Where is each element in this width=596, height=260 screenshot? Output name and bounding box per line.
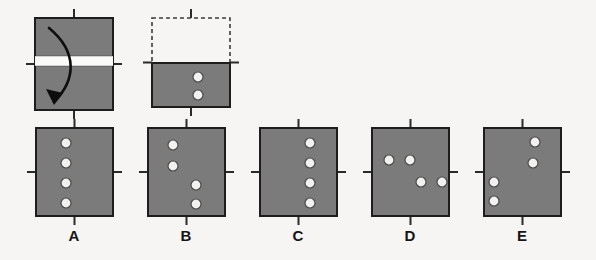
option-b-hole-1 — [168, 140, 178, 150]
paper-folding-figure: ABCDE — [0, 0, 596, 260]
option-b-hole-2 — [168, 161, 178, 171]
option-a-label: A — [69, 227, 80, 244]
option-d-hole-4 — [437, 177, 447, 187]
option-d-hole-1 — [384, 155, 394, 165]
figure-canvas: ABCDE — [0, 0, 596, 260]
option-c-sheet[interactable] — [260, 128, 337, 216]
option-e-label: E — [517, 227, 527, 244]
option-b-sheet[interactable] — [148, 128, 225, 216]
option-a-hole-1 — [61, 138, 71, 148]
punch-step-hole-1 — [193, 72, 203, 82]
option-d-label: D — [405, 227, 416, 244]
punch-step-folded-sheet — [152, 63, 230, 107]
punch-step-hole-2 — [193, 90, 203, 100]
option-b-hole-4 — [191, 199, 201, 209]
option-b-label: B — [181, 227, 192, 244]
option-c-hole-2 — [305, 158, 315, 168]
option-c-hole-3 — [305, 178, 315, 188]
option-d-sheet[interactable] — [372, 128, 449, 216]
option-e-hole-3 — [489, 177, 499, 187]
option-b-hole-3 — [191, 180, 201, 190]
option-a-sheet[interactable] — [36, 128, 113, 216]
option-c-hole-1 — [305, 138, 315, 148]
option-d-hole-2 — [405, 155, 415, 165]
option-a-hole-3 — [61, 178, 71, 188]
option-c-hole-4 — [305, 198, 315, 208]
option-c-label: C — [293, 227, 304, 244]
fold-step-square — [26, 9, 122, 119]
option-d-hole-3 — [416, 177, 426, 187]
option-e-hole-4 — [489, 196, 499, 206]
option-a-hole-4 — [61, 198, 71, 208]
option-e-hole-1 — [530, 137, 540, 147]
option-e-hole-2 — [528, 158, 538, 168]
fold-crease-band — [35, 56, 113, 66]
option-a-hole-2 — [61, 158, 71, 168]
